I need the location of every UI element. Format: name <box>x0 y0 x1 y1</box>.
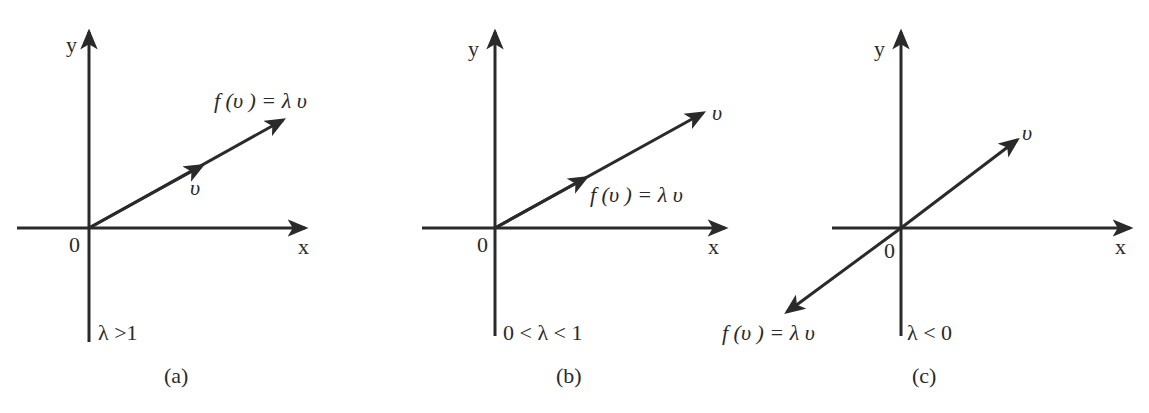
x-axis-label: x <box>1115 234 1126 259</box>
vector-v-arrow <box>901 140 1017 228</box>
image-label: f (υ ) = λ υ <box>590 182 683 207</box>
panel-caption: (c) <box>912 363 936 388</box>
condition-label: λ >1 <box>98 320 138 345</box>
eigenvector-scaling-figure: y x 0 υ f (υ ) = λ υ λ >1 (a) y x 0 υ f … <box>0 0 1149 413</box>
panel-caption: (b) <box>556 363 582 388</box>
vector-label: υ <box>1022 120 1032 145</box>
origin-label: 0 <box>884 238 895 263</box>
y-axis-label: y <box>468 36 479 61</box>
panel-b: y x 0 υ f (υ ) = λ υ 0 < λ < 1 (b) <box>422 32 725 388</box>
panel-c: y x 0 υ f (υ ) = λ υ λ < 0 (c) <box>722 32 1130 388</box>
image-label: f (υ ) = λ υ <box>214 88 307 113</box>
vector-label: υ <box>190 175 200 200</box>
x-axis-label: x <box>708 234 719 259</box>
y-axis-label: y <box>874 36 885 61</box>
condition-label: 0 < λ < 1 <box>503 320 582 345</box>
origin-label: 0 <box>69 232 80 257</box>
panel-caption: (a) <box>164 363 188 388</box>
image-vector-arrow-head <box>495 181 580 228</box>
image-label: f (υ ) = λ υ <box>722 320 815 345</box>
origin-label: 0 <box>477 232 488 257</box>
x-axis-label: x <box>298 234 309 259</box>
y-axis-label: y <box>66 32 77 57</box>
vector-v-arrow-head <box>89 169 196 228</box>
vector-label: υ <box>712 100 722 125</box>
condition-label: λ < 0 <box>907 320 952 345</box>
panel-a: y x 0 υ f (υ ) = λ υ λ >1 (a) <box>17 32 309 388</box>
